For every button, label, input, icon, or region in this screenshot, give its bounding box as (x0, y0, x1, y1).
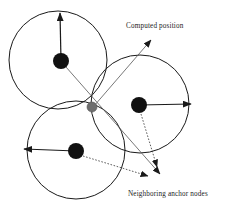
diagram-canvas: Computed position Neighboring anchor nod… (0, 0, 232, 210)
diagram-svg (0, 0, 232, 210)
leader-line-anchor-top-left (66, 67, 160, 174)
leader-line-anchor-right (141, 114, 157, 167)
label-neighboring-anchor-nodes: Neighboring anchor nodes (128, 190, 208, 198)
anchor-node-bottom-left (68, 143, 84, 159)
anchor-node-right (131, 97, 147, 113)
label-computed-position: Computed position (126, 22, 183, 30)
computed-position-node (87, 102, 97, 112)
leader-line-anchor-bottom-left (83, 156, 148, 176)
anchor-node-top-left (53, 53, 69, 69)
